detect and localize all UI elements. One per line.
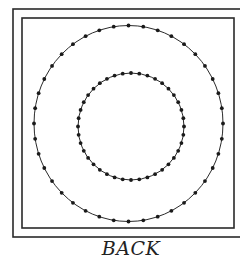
- inner-ring-dot: [180, 108, 184, 112]
- inner-ring-dot: [86, 93, 90, 97]
- inner-ring-dot: [129, 178, 133, 182]
- caption-back: BACK: [0, 237, 240, 259]
- outer-ring-dot: [156, 215, 160, 219]
- outer-ring-dot: [127, 220, 131, 224]
- outer-frame: [13, 9, 240, 237]
- inner-ring-dot: [82, 149, 86, 153]
- outer-ring-dot: [193, 52, 197, 56]
- outer-ring-dot: [33, 106, 37, 110]
- outer-ring-dot: [60, 52, 64, 56]
- inner-ring-dot: [160, 168, 164, 172]
- inner-ring-dot: [121, 72, 125, 76]
- inner-ring-dot: [153, 77, 157, 81]
- inner-ring-dot: [180, 141, 184, 145]
- outer-ring-dot: [42, 166, 46, 170]
- outer-ring-dot: [220, 106, 224, 110]
- inner-ring-dot: [160, 81, 164, 85]
- inner-ring-dot: [121, 177, 125, 181]
- outer-ring-dot: [60, 191, 64, 195]
- outer-ring-dot: [141, 218, 145, 222]
- inner-ring-dot: [113, 175, 117, 179]
- inner-ring-dot: [181, 116, 185, 120]
- inner-ring-dot: [176, 100, 180, 104]
- inner-ring-dot: [86, 156, 90, 160]
- back-diagram: [0, 0, 240, 259]
- outer-ring-dot: [127, 24, 131, 28]
- outer-ring-dot: [33, 137, 37, 141]
- inner-ring-dot: [113, 74, 117, 78]
- outer-ring-dot: [97, 28, 101, 32]
- outer-ring-dot: [156, 28, 160, 32]
- outer-ring-dot: [182, 201, 186, 205]
- inner-ring-dot: [145, 74, 149, 78]
- inner-ring-dot: [79, 141, 83, 145]
- inner-ring-dot: [153, 172, 157, 176]
- inner-ring-dot: [182, 125, 186, 129]
- outer-ring-dot: [216, 152, 220, 156]
- inner-ring-dot: [176, 149, 180, 153]
- inner-ring-dot: [92, 162, 96, 166]
- outer-ring-dot: [203, 179, 207, 183]
- outer-ring-dot: [182, 42, 186, 46]
- outer-ring-dot: [203, 64, 207, 68]
- outer-ring-dot: [211, 166, 215, 170]
- outer-ring-dot: [71, 42, 75, 46]
- inner-ring-dot: [172, 93, 176, 97]
- outer-ring-dot: [84, 34, 88, 38]
- outer-ring-dot: [220, 137, 224, 141]
- outer-ring-dot: [170, 209, 174, 213]
- inner-ring-dot: [76, 125, 80, 129]
- outer-ring-dot: [97, 215, 101, 219]
- outer-ring-dot: [193, 191, 197, 195]
- outer-ring-dot: [211, 77, 215, 81]
- outer-ring-dot: [216, 91, 220, 95]
- outer-ring-dot: [50, 179, 54, 183]
- inner-ring-dot: [167, 87, 171, 91]
- inner-ring-dot: [137, 72, 141, 76]
- inner-ring-dot: [172, 156, 176, 160]
- outer-ring-dot: [112, 25, 116, 29]
- inner-ring-dot: [92, 87, 96, 91]
- inner-ring-dot: [77, 116, 81, 120]
- outer-ring-dot: [221, 122, 225, 126]
- outer-ring-dot: [37, 91, 41, 95]
- inner-ring-dot: [129, 71, 133, 75]
- outer-ring-dot: [50, 64, 54, 68]
- outer-ring-dot: [37, 152, 41, 156]
- outer-ring-dot: [42, 77, 46, 81]
- inner-ring-dot: [82, 100, 86, 104]
- inner-ring-dot: [98, 168, 102, 172]
- inner-ring-dot: [167, 162, 171, 166]
- inner-ring-dot: [105, 77, 109, 81]
- outer-ring-dot: [112, 218, 116, 222]
- inner-ring-dot: [77, 133, 81, 137]
- outer-ring-dot: [141, 25, 145, 29]
- inner-frame: [22, 18, 234, 228]
- inner-ring-dot: [105, 172, 109, 176]
- outer-ring-dot: [84, 209, 88, 213]
- outer-ring-dot: [71, 201, 75, 205]
- inner-ring-dot: [79, 108, 83, 112]
- inner-ring-dot: [181, 133, 185, 137]
- inner-ring-dot: [98, 81, 102, 85]
- outer-ring-dot: [32, 122, 36, 126]
- inner-ring-dot: [137, 177, 141, 181]
- outer-ring-dot: [170, 34, 174, 38]
- rings-group: [32, 24, 225, 224]
- inner-ring-dot: [145, 175, 149, 179]
